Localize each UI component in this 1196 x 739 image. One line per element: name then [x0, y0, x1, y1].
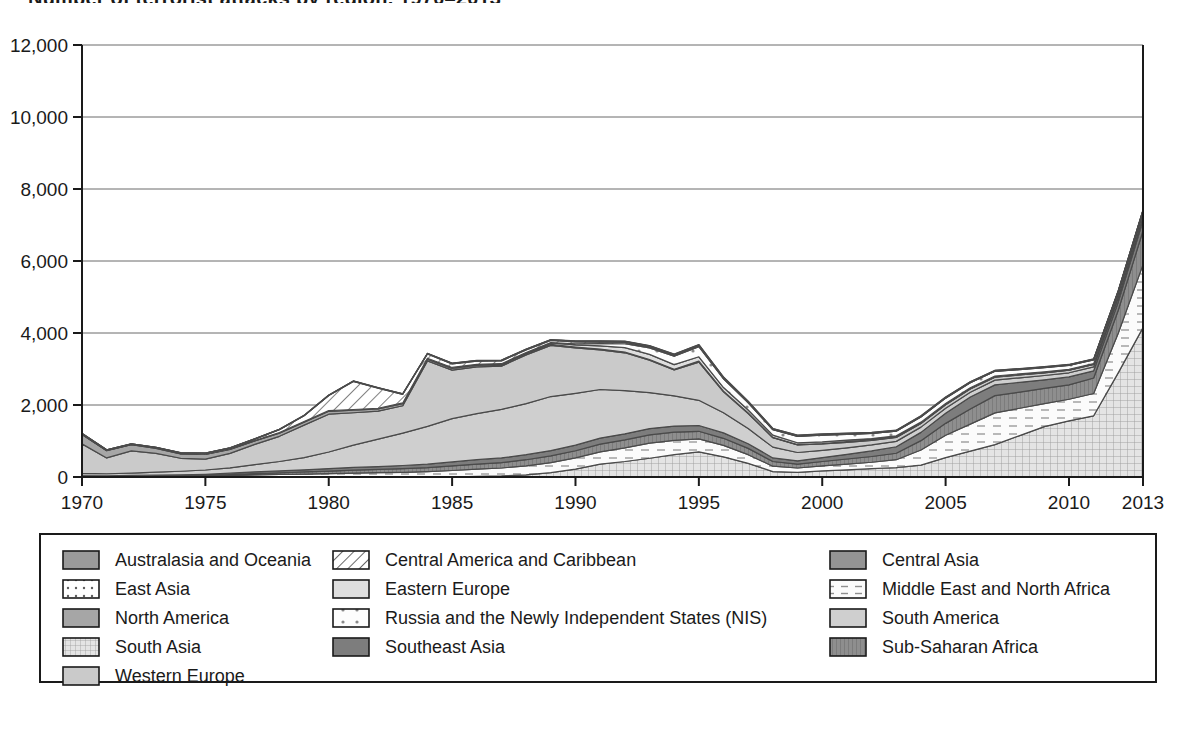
y-tick-label: 10,000: [10, 107, 68, 128]
legend-item[interactable]: Southeast Asia: [333, 637, 506, 657]
legend-label: South Asia: [115, 637, 202, 657]
legend-item[interactable]: Central Asia: [830, 550, 980, 570]
legend-label: North America: [115, 608, 230, 628]
x-tick-label: 1995: [678, 492, 720, 513]
x-tick-label: 2013: [1122, 492, 1164, 513]
legend-item[interactable]: East Asia: [63, 579, 191, 599]
legend-label: Russia and the Newly Independent States …: [385, 608, 767, 628]
legend-swatch: [333, 580, 369, 598]
chart-legend: Australasia and OceaniaEast AsiaNorth Am…: [0, 520, 1196, 700]
legend-swatch: [333, 638, 369, 656]
x-tick-label: 1990: [554, 492, 596, 513]
legend-swatch: [63, 580, 99, 598]
legend-swatch: [830, 551, 866, 569]
legend-swatch: [333, 551, 369, 569]
legend-item[interactable]: Western Europe: [63, 666, 245, 686]
legend-item[interactable]: Russia and the Newly Independent States …: [333, 608, 767, 628]
legend-swatch: [830, 609, 866, 627]
legend-item[interactable]: South America: [830, 608, 1000, 628]
legend-swatch: [830, 580, 866, 598]
chart-y-axis: 02,0004,0006,0008,00010,00012,000: [10, 35, 82, 488]
x-tick-label: 1970: [61, 492, 103, 513]
y-tick-label: 4,000: [20, 323, 68, 344]
legend-swatch: [333, 609, 369, 627]
chart-title: Number of terrorist attacks by region, 1…: [28, 0, 501, 3]
x-tick-label: 2005: [924, 492, 966, 513]
legend-swatch: [63, 638, 99, 656]
legend-label: South America: [882, 608, 1000, 628]
legend-item[interactable]: Eastern Europe: [333, 579, 510, 599]
legend-swatch: [63, 609, 99, 627]
legend-label: Central Asia: [882, 550, 980, 570]
legend-item[interactable]: South Asia: [63, 637, 202, 657]
y-tick-label: 6,000: [20, 251, 68, 272]
legend-item[interactable]: North America: [63, 608, 230, 628]
y-tick-label: 12,000: [10, 35, 68, 56]
legend-swatch: [830, 638, 866, 656]
legend-swatch: [63, 667, 99, 685]
legend-item[interactable]: Sub-Saharan Africa: [830, 637, 1039, 657]
x-tick-label: 1980: [308, 492, 350, 513]
x-tick-label: 2010: [1048, 492, 1090, 513]
chart-x-axis: 1970197519801985199019952000200520102013: [61, 477, 1164, 513]
legend-label: Middle East and North Africa: [882, 579, 1111, 599]
y-tick-label: 8,000: [20, 179, 68, 200]
chart-series-areas: [82, 210, 1143, 477]
legend-swatch: [63, 551, 99, 569]
y-tick-label: 2,000: [20, 395, 68, 416]
x-tick-label: 1975: [184, 492, 226, 513]
chart-plot-area: 02,0004,0006,0008,00010,00012,000 197019…: [0, 22, 1196, 522]
x-tick-label: 2000: [801, 492, 843, 513]
legend-label: Western Europe: [115, 666, 245, 686]
y-tick-label: 0: [57, 467, 68, 488]
legend-label: Southeast Asia: [385, 637, 506, 657]
x-tick-label: 1985: [431, 492, 473, 513]
legend-label: Eastern Europe: [385, 579, 510, 599]
legend-label: Australasia and Oceania: [115, 550, 312, 570]
legend-label: Sub-Saharan Africa: [882, 637, 1039, 657]
chart-figure: Number of terrorist attacks by region, 1…: [0, 0, 1196, 739]
legend-label: East Asia: [115, 579, 191, 599]
legend-label: Central America and Caribbean: [385, 550, 636, 570]
